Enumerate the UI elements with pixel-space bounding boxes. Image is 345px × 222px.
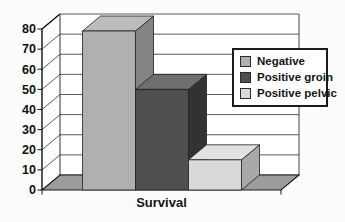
legend-item-positive-groin: Positive groin: [240, 71, 320, 84]
y-tick-label-70: 70: [22, 42, 36, 56]
figure-3d-bar-chart: 01020304050607080 Negative Positive groi…: [0, 0, 345, 222]
y-tick-label-40: 40: [22, 103, 36, 117]
legend-label-positive-groin: Positive groin: [257, 71, 333, 84]
legend-swatch-positive-pelvic: [240, 88, 251, 99]
chart-canvas: 01020304050607080: [0, 0, 345, 222]
y-tick-label-60: 60: [22, 63, 36, 77]
y-tick-label-80: 80: [22, 22, 36, 36]
y-tick-label-0: 0: [29, 183, 36, 197]
category-label: Survival: [42, 195, 281, 210]
y-tick-label-10: 10: [22, 163, 36, 177]
y-tick-label-30: 30: [22, 123, 36, 137]
legend: Negative Positive groin Positive pelvic: [232, 48, 328, 107]
bar-negative: [83, 31, 136, 190]
legend-item-negative: Negative: [240, 55, 320, 68]
legend-label-negative: Negative: [257, 55, 305, 68]
y-tick-label-20: 20: [22, 143, 36, 157]
bar-positive-groin: [136, 89, 189, 190]
legend-label-positive-pelvic: Positive pelvic: [257, 87, 337, 100]
legend-swatch-negative: [240, 56, 251, 67]
legend-item-positive-pelvic: Positive pelvic: [240, 87, 320, 100]
bar-positive-pelvic: [189, 160, 242, 190]
legend-swatch-positive-groin: [240, 72, 251, 83]
y-tick-label-50: 50: [22, 83, 36, 97]
